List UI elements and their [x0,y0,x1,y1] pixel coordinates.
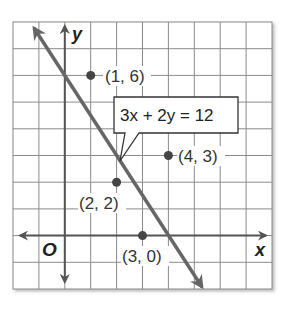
point-label-1-6: (1, 6) [105,67,145,86]
point-label-2-2: (2, 2) [79,194,119,213]
point-1-6 [86,71,95,80]
y-axis-label: y [71,24,83,44]
point-2-2 [112,178,121,187]
equation-label: 3x + 2y = 12 [120,106,214,125]
x-axis-label: x [254,240,266,260]
coordinate-graph: y x O (1, 6) (4, 3) (2, 2) (3, 0) 3x + 2… [0,0,289,313]
point-label-3-0: (3, 0) [122,247,162,266]
point-4-3 [164,151,173,160]
point-label-4-3: (4, 3) [178,147,218,166]
origin-label: O [42,239,57,260]
point-3-0 [138,231,147,240]
